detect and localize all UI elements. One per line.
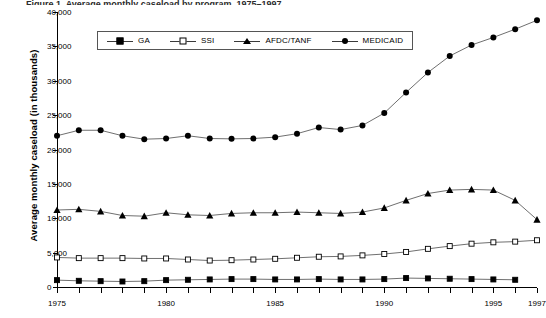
x-tick-label: 1985 (266, 299, 284, 308)
x-tick-mark (275, 288, 276, 293)
x-tick-mark (253, 288, 254, 293)
legend-label: GA (138, 36, 150, 45)
plot-area: 40,00035,00030,00025,00020,00015,00010,0… (57, 12, 537, 287)
y-tick-label: 30,000 (47, 76, 49, 85)
legend-label: AFDC/TANF (265, 36, 311, 45)
y-tick-label: 0 (47, 283, 49, 292)
x-tick-mark (537, 288, 538, 293)
x-tick-mark (406, 288, 407, 293)
x-tick-mark (297, 288, 298, 293)
legend-swatch (107, 36, 133, 46)
chart-legend: GASSIAFDC/TANFMEDICAID (97, 31, 413, 50)
filled-triangle-marker (243, 38, 251, 44)
filled-circle-marker (342, 38, 348, 44)
x-tick-mark (210, 288, 211, 293)
y-tick-label: 20,000 (47, 145, 49, 154)
x-tick-mark (362, 288, 363, 293)
x-tick-mark (188, 288, 189, 293)
legend-swatch (170, 36, 196, 46)
legend-label: SSI (201, 36, 215, 45)
y-tick-label: 35,000 (47, 42, 49, 51)
x-tick-mark (122, 288, 123, 293)
series-afdc-tanf (53, 186, 540, 223)
series-layer (57, 12, 537, 287)
x-tick-mark (493, 288, 494, 293)
x-tick-mark (101, 288, 102, 293)
x-tick-mark (144, 288, 145, 293)
y-tick-label: 10,000 (47, 214, 49, 223)
legend-entry-medicaid[interactable]: MEDICAID (332, 36, 404, 46)
x-tick-label: 1995 (484, 299, 502, 308)
x-tick-mark (319, 288, 320, 293)
series-ga (55, 276, 518, 284)
x-tick-mark (450, 288, 451, 293)
x-tick-mark (472, 288, 473, 293)
x-tick-label: 1980 (157, 299, 175, 308)
y-tick-label: 5,000 (47, 248, 49, 257)
x-tick-mark (79, 288, 80, 293)
x-tick-mark (232, 288, 233, 293)
figure-title: Figure 1. Average monthly caseload by pr… (26, 0, 326, 5)
x-tick-mark (57, 288, 58, 293)
legend-label: MEDICAID (363, 36, 404, 45)
x-tick-mark (515, 288, 516, 293)
y-tick-label: 40,000 (47, 8, 49, 17)
legend-swatch (332, 36, 358, 46)
x-tick-mark (384, 288, 385, 293)
x-tick-label: 1975 (48, 299, 66, 308)
series-ssi (55, 238, 540, 263)
legend-entry-ga[interactable]: GA (107, 36, 150, 46)
legend-entry-ssi[interactable]: SSI (170, 36, 215, 46)
y-tick-label: 25,000 (47, 111, 49, 120)
filled-square-marker (117, 37, 124, 44)
x-tick-label: 1997 (528, 299, 546, 308)
legend-entry-afdc-tanf[interactable]: AFDC/TANF (234, 36, 311, 46)
y-axis-title: Average monthly caseload (in thousands) (28, 36, 39, 256)
y-tick-label: 15,000 (47, 179, 49, 188)
legend-swatch (234, 36, 260, 46)
x-tick-mark (166, 288, 167, 293)
x-tick-mark (341, 288, 342, 293)
x-tick-label: 1990 (375, 299, 393, 308)
x-tick-mark (428, 288, 429, 293)
open-square-marker (179, 37, 186, 44)
